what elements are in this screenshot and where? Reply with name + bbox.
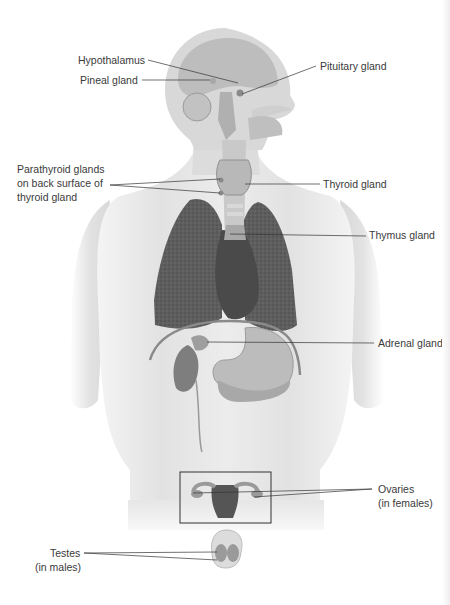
pituitary-gland-shape [237,90,244,97]
cerebellum [183,93,211,121]
thymus-shape [224,225,246,240]
label-parathyroid-line3: thyroid gland [17,191,77,204]
label-parathyroid-line1: Parathyroid glands [17,163,105,176]
label-thymus-gland: Thymus gland [369,229,435,242]
trachea-ring-2 [227,212,243,216]
left-ovary [191,490,203,498]
endocrine-diagram: Hypothalamus Pineal gland Pituitary glan… [0,0,450,605]
testes-leader-1 [84,552,217,553]
label-thyroid-gland: Thyroid gland [323,178,387,191]
testes-leader-2 [84,553,217,560]
label-hypothalamus: Hypothalamus [78,54,145,67]
label-adrenal-gland: Adrenal gland [378,337,443,350]
pineal-gland-shape [210,78,216,84]
page-edge-shadow [442,0,450,605]
thyroid-shape [217,160,252,195]
parathyroid-shape-1 [219,178,224,183]
right-testis [227,544,239,562]
label-pituitary-gland: Pituitary gland [320,60,387,73]
label-ovaries-note: (in females) [378,497,433,510]
label-ovaries: Ovaries [378,483,414,496]
label-testes-note: (in males) [35,561,81,574]
body-illustration [0,0,450,605]
mouth-cavity [248,116,282,140]
left-testis [215,544,227,562]
label-testes: Testes [50,547,80,560]
trachea-ring-1 [227,204,243,208]
label-pineal-gland: Pineal gland [80,74,138,87]
label-parathyroid-line2: on back surface of [17,177,103,190]
